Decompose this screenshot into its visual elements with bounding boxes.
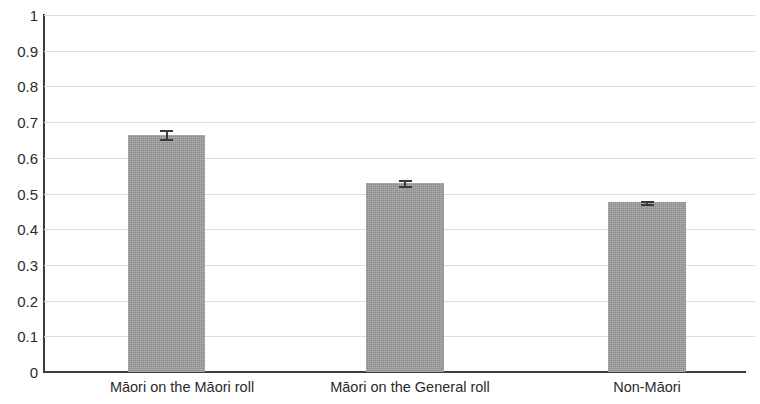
gridline-0.9 <box>44 51 755 52</box>
y-axis-tick-label: 0.3 <box>0 257 38 272</box>
gridline-1.0 <box>44 15 755 16</box>
y-axis-tick-label: 0.1 <box>0 329 38 344</box>
y-axis-tick-label: 0.7 <box>0 115 38 130</box>
bar-chart: 1 0.9 0.8 0.7 0.6 0.5 0.4 0.3 0.2 0.1 0 <box>0 0 760 404</box>
error-bar-cap-bottom <box>160 139 173 141</box>
gridline-0.8 <box>44 86 755 87</box>
y-axis-tick-label: 0.2 <box>0 293 38 308</box>
bar-non-maori <box>608 202 686 372</box>
bar-maori-on-general-roll <box>366 183 444 372</box>
error-bar-cap-bottom <box>641 204 654 206</box>
bar-maori-on-maori-roll <box>128 135 205 372</box>
y-axis-tick-label: 0.8 <box>0 79 38 94</box>
y-axis-tick-label: 0 <box>0 365 38 380</box>
y-axis-tick-label: 1 <box>0 8 38 23</box>
error-bar-cap-top <box>641 201 654 203</box>
error-bar-cap-top <box>160 130 173 132</box>
gridline-0.7 <box>44 122 755 123</box>
y-axis-tick-label: 0.6 <box>0 150 38 165</box>
y-axis-tick-label: 0.9 <box>0 43 38 58</box>
x-axis-category-label-2: Non-Māori <box>511 380 760 396</box>
error-bar-cap-top <box>399 180 412 182</box>
error-bar-cap-bottom <box>399 186 412 188</box>
y-axis-tick-label: 0.4 <box>0 222 38 237</box>
x-axis-category-label-1: Māori on the General roll <box>274 380 546 396</box>
y-axis-tick-label: 0.5 <box>0 186 38 201</box>
plot-area <box>44 15 755 372</box>
